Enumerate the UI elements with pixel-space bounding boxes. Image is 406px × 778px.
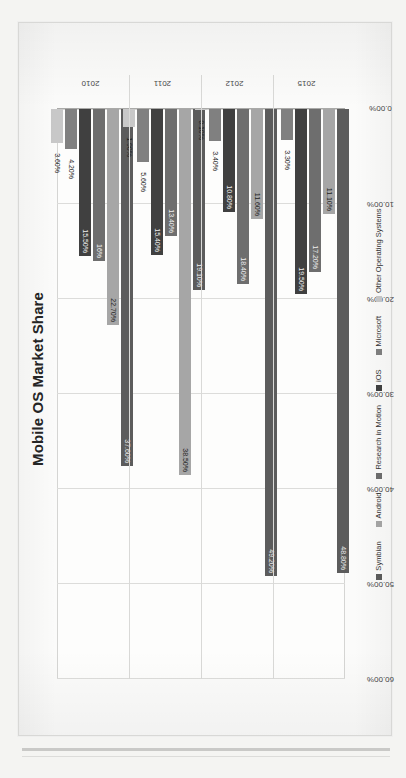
bar-android-2011: 38.50% <box>179 109 191 475</box>
bar-research-in-motion-2015: 17.20% <box>309 109 321 272</box>
category-axis-label: 2011 <box>158 63 167 103</box>
legend-swatch <box>376 349 382 355</box>
bar-value-label: 3.40% <box>209 151 221 171</box>
rotated-chart-wrapper: Mobile OS Market Share 3.60%4.20%15.50%1… <box>0 0 406 778</box>
bar-value-label: 38.50% <box>179 448 191 472</box>
bar-microsoft-2012: 3.40% <box>209 109 221 141</box>
bar-value-label: 19.50% <box>295 268 307 292</box>
bar-value-label: 17.20% <box>309 246 321 270</box>
category-separator <box>129 75 130 679</box>
legend-item-ios: iOS <box>374 369 383 391</box>
bar-research-in-motion-2011: 13.40% <box>165 109 177 236</box>
bar-microsoft-2011: 5.60% <box>137 109 149 162</box>
bar-value-label: 49.20% <box>265 550 277 574</box>
bar-research-in-motion-2010: 16% <box>93 109 105 261</box>
bar-symbian-2010: 37.60% <box>121 109 133 466</box>
bar-value-label: 16% <box>93 244 105 258</box>
page-edge-strip-secondary <box>22 756 390 757</box>
chart-legend: SymbianAndroidResearch in MotioniOSMicro… <box>374 109 383 679</box>
scanned-page: Mobile OS Market Share 3.60%4.20%15.50%1… <box>0 0 406 778</box>
category-axis-label: 2015 <box>302 63 311 103</box>
category-axis-label: 2010 <box>86 63 95 103</box>
bar-value-label: 3.60% <box>51 153 63 173</box>
bar-value-label: 5.60% <box>137 172 149 192</box>
bar-value-label: 19.10% <box>193 264 205 288</box>
bar-ios-2015: 19.50% <box>295 109 307 294</box>
legend-label: Symbian <box>374 541 383 570</box>
bar-ios-2010: 15.50% <box>79 109 91 256</box>
bar-value-label: 37.60% <box>121 439 133 463</box>
chart-title: Mobile OS Market Share <box>29 23 46 735</box>
bar-value-label: 10.80% <box>223 185 235 209</box>
bar-microsoft-2015: 3.30% <box>281 109 293 140</box>
legend-item-microsoft: Microsoft <box>374 316 383 355</box>
bar-value-label: 13.40% <box>165 210 177 234</box>
bar-android-2010: 22.70% <box>107 109 119 325</box>
page-edge-strip <box>22 748 390 751</box>
bar-value-label: 22.70% <box>107 298 119 322</box>
legend-label: Research in Motion <box>374 405 383 470</box>
bar-value-label: 3.30% <box>281 151 293 171</box>
category-separator <box>201 75 202 679</box>
bar-android-2015: 11.10% <box>323 109 335 214</box>
legend-label: Microsoft <box>374 316 383 346</box>
bar-symbian-2012: 49.20% <box>265 109 277 576</box>
category-axis-label: 2012 <box>230 63 239 103</box>
legend-item-android: Android <box>374 493 383 528</box>
bar-android-2012: 11.60% <box>251 109 263 219</box>
legend-label: Other Operating Systems <box>374 208 383 293</box>
bar-ios-2012: 10.80% <box>223 109 235 212</box>
bar-other-operating-systems-2010: 3.60% <box>51 109 63 143</box>
legend-swatch <box>376 296 382 302</box>
bar-ios-2011: 15.40% <box>151 109 163 255</box>
legend-swatch <box>376 473 382 479</box>
bar-value-label: 11.60% <box>251 193 263 216</box>
legend-label: Android <box>374 493 383 519</box>
legend-swatch <box>376 521 382 527</box>
legend-item-other-operating-systems: Other Operating Systems <box>374 208 383 302</box>
legend-item-symbian: Symbian <box>374 541 383 579</box>
bar-value-label: 15.50% <box>79 230 91 254</box>
bar-value-label: 18.40% <box>237 257 249 281</box>
bar-value-label: 11.10% <box>323 188 335 211</box>
chart-sheet: Mobile OS Market Share 3.60%4.20%15.50%1… <box>18 22 392 736</box>
legend-label: iOS <box>374 369 383 382</box>
bar-research-in-motion-2012: 18.40% <box>237 109 249 284</box>
plot-area: 3.60%4.20%15.50%16%22.70%37.60%1.90%5.60… <box>57 109 345 679</box>
legend-item-research-in-motion: Research in Motion <box>374 405 383 479</box>
legend-swatch <box>376 574 382 580</box>
bar-value-label: 4.20% <box>65 159 77 179</box>
bar-value-label: 48.80% <box>337 546 349 570</box>
bar-symbian-2015: 48.80% <box>337 109 349 573</box>
category-separator <box>273 75 274 679</box>
legend-swatch <box>376 385 382 391</box>
bar-microsoft-2010: 4.20% <box>65 109 77 149</box>
bar-value-label: 15.40% <box>151 229 163 253</box>
